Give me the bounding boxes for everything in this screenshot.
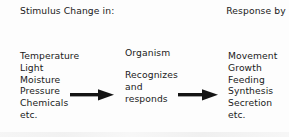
stimulus-heading-line-1: Stimulus xyxy=(20,5,61,16)
right-arrow-icon xyxy=(70,88,114,102)
list-item: Light xyxy=(20,62,79,74)
list-item: Growth xyxy=(228,62,277,74)
right-arrow-icon xyxy=(178,88,218,102)
diagram-canvas: Stimulus Change in: Temperature Light Mo… xyxy=(0,0,289,137)
response-heading-line-1: Response xyxy=(226,5,271,16)
response-heading-line-2: by xyxy=(274,5,285,16)
stimulus-heading-line-2: Change in: xyxy=(64,5,115,16)
list-item: Synthesis xyxy=(228,85,277,97)
list-item: Feeding xyxy=(228,74,277,86)
list-item: Temperature xyxy=(20,50,79,62)
organism-item-list: Recognizes and responds xyxy=(125,69,178,104)
organism-heading-line-1: Organism xyxy=(125,47,170,58)
list-item: Secretion xyxy=(228,97,277,109)
list-item: and xyxy=(125,81,178,93)
response-item-list: Movement Growth Feeding Synthesis Secret… xyxy=(228,50,277,121)
list-item: Moisture xyxy=(20,74,79,86)
response-heading: Response by xyxy=(226,5,286,17)
list-item: responds xyxy=(125,93,178,105)
stimulus-heading: Stimulus Change in: xyxy=(20,5,114,17)
list-item: etc. xyxy=(20,109,79,121)
list-item: etc. xyxy=(228,109,277,121)
stimulus-item-list: Temperature Light Moisture Pressure Chem… xyxy=(20,50,79,121)
list-item: Recognizes xyxy=(125,69,178,81)
scan-artifact xyxy=(0,132,289,137)
list-item: Movement xyxy=(228,50,277,62)
organism-heading: Organism xyxy=(125,47,170,59)
